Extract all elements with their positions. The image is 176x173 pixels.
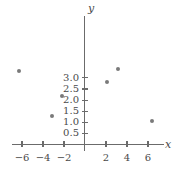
x-tick bbox=[21, 141, 22, 147]
data-point bbox=[150, 119, 154, 123]
plot-area: x y −6−4−2246 0.51.01.52.02.53.0 bbox=[0, 0, 176, 173]
x-tick bbox=[126, 141, 127, 147]
y-axis-label: y bbox=[88, 3, 94, 14]
x-tick-label: 4 bbox=[124, 153, 130, 163]
data-point bbox=[105, 80, 109, 84]
data-point bbox=[50, 114, 54, 118]
data-point bbox=[60, 94, 64, 98]
y-tick bbox=[82, 133, 88, 134]
y-tick-label: 1.0 bbox=[55, 117, 79, 127]
y-tick-label: 2.5 bbox=[55, 84, 79, 94]
scatter-plot-screenshot: x y −6−4−2246 0.51.01.52.02.53.0 bbox=[0, 0, 176, 173]
x-tick bbox=[147, 141, 148, 147]
y-tick bbox=[82, 88, 88, 89]
y-tick-label: 3.0 bbox=[55, 73, 79, 83]
x-axis-label: x bbox=[165, 139, 171, 150]
y-tick bbox=[82, 122, 88, 123]
x-tick-label: −6 bbox=[15, 153, 30, 163]
data-point bbox=[17, 69, 21, 73]
x-tick-label: 6 bbox=[145, 153, 151, 163]
y-tick bbox=[82, 111, 88, 112]
y-tick bbox=[82, 100, 88, 101]
x-tick-label: −4 bbox=[36, 153, 51, 163]
y-tick-label: 1.5 bbox=[55, 106, 79, 116]
data-point bbox=[116, 67, 120, 71]
y-tick bbox=[82, 77, 88, 78]
x-tick-label: −2 bbox=[57, 153, 72, 163]
y-tick-label: 2.0 bbox=[55, 95, 79, 105]
x-tick bbox=[63, 141, 64, 147]
y-tick-label: 0.5 bbox=[55, 128, 79, 138]
x-tick bbox=[42, 141, 43, 147]
x-axis-line bbox=[12, 144, 164, 145]
x-tick-label: 2 bbox=[103, 153, 109, 163]
y-axis-line bbox=[84, 16, 85, 151]
x-tick bbox=[105, 141, 106, 147]
